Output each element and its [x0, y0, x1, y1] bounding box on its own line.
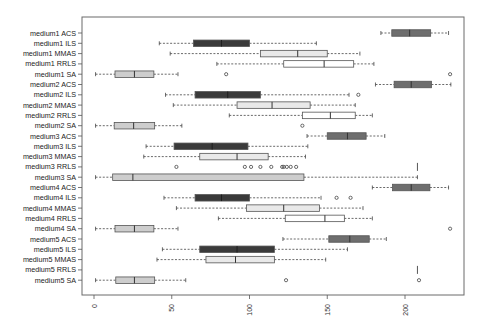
outlier-point: [301, 124, 304, 127]
box-row: [96, 225, 452, 232]
x-tick-label: 0: [91, 304, 98, 308]
y-tick-label: medium1 RRLS: [25, 59, 76, 68]
outlier-point: [295, 165, 298, 168]
box-iqr: [114, 122, 154, 129]
outlier-point: [335, 196, 338, 199]
box-row: [283, 236, 386, 243]
y-tick-label: medium4 ACS: [30, 183, 76, 192]
box-row: [96, 122, 304, 129]
outlier-point: [448, 227, 451, 230]
box-row: [173, 102, 355, 109]
plot-frame: [82, 17, 464, 295]
outlier-point: [357, 93, 360, 96]
box-row: [229, 112, 372, 119]
y-tick-label: medium1 ACS: [30, 29, 76, 38]
box-row: [96, 71, 452, 78]
box-iqr: [260, 50, 327, 57]
box-row: [217, 61, 374, 68]
outlier-point: [284, 279, 287, 282]
box-row: [176, 205, 363, 212]
box-row: [162, 246, 347, 253]
box-row: [146, 143, 308, 150]
box-iqr: [174, 143, 248, 150]
box-iqr: [237, 102, 310, 109]
box-iqr: [113, 174, 304, 181]
x-tick-label: 50: [168, 304, 175, 312]
y-tick-label: medium3 RRLS: [25, 162, 76, 171]
y-tick-label: medium4 MMAS: [23, 204, 76, 213]
box-iqr: [195, 195, 249, 202]
y-tick-label: medium3 MMAS: [23, 152, 76, 161]
y-tick-label: medium1 SA: [35, 70, 76, 79]
outlier-point: [349, 196, 352, 199]
box-row: [307, 133, 385, 140]
box-row: [166, 92, 360, 99]
y-tick-label: medium2 ILS: [34, 90, 77, 99]
box-iqr: [246, 205, 319, 212]
y-tick-label: medium5 RRLS: [25, 265, 76, 274]
box-rows: [96, 30, 452, 284]
box-iqr: [392, 30, 431, 37]
y-tick-label: medium3 ACS: [30, 132, 76, 141]
box-row: [375, 81, 450, 88]
y-tick-label: medium3 SA: [35, 173, 76, 182]
box-row: [164, 195, 352, 202]
y-tick-label: medium5 SA: [35, 276, 76, 285]
y-tick-label: medium2 SA: [35, 121, 76, 130]
box-row: [159, 40, 316, 47]
y-tick-label: medium5 MMAS: [23, 255, 76, 264]
y-tick-label: medium3 ILS: [34, 142, 77, 151]
box-row: [157, 256, 326, 263]
box-iqr: [200, 153, 268, 160]
box-row: [96, 174, 418, 181]
y-tick-label: medium4 SA: [35, 224, 76, 233]
box-iqr: [327, 133, 366, 140]
box-iqr: [302, 112, 355, 119]
outlier-point: [289, 165, 292, 168]
y-tick-label: medium4 ILS: [34, 193, 77, 202]
outlier-point: [259, 165, 262, 168]
box-row: [144, 153, 306, 160]
outlier-point: [270, 165, 273, 168]
outlier-point: [243, 165, 246, 168]
box-iqr: [284, 61, 354, 68]
box-row: [381, 30, 449, 37]
box-iqr: [329, 236, 369, 243]
outlier-point: [225, 73, 228, 76]
box-iqr: [116, 277, 155, 284]
outlier-point: [448, 73, 451, 76]
y-tick-label: medium2 ACS: [30, 80, 76, 89]
x-axis: 050100150200: [91, 295, 409, 316]
outlier-point: [417, 279, 420, 282]
boxplot-chart: medium1 ACSmedium1 ILSmedium1 MMASmedium…: [0, 0, 488, 333]
y-tick-label: medium5 ACS: [30, 235, 76, 244]
box-iqr: [206, 256, 274, 263]
box-row: [96, 277, 421, 284]
y-axis-labels: medium1 ACSmedium1 ILSmedium1 MMASmedium…: [23, 29, 82, 285]
box-iqr: [394, 81, 431, 88]
y-tick-label: medium1 MMAS: [23, 49, 76, 58]
box-row: [175, 163, 418, 171]
box-row: [170, 50, 360, 57]
box-iqr: [285, 215, 344, 222]
y-tick-label: medium2 RRLS: [25, 111, 76, 120]
box-row: [218, 215, 372, 222]
y-tick-label: medium2 MMAS: [23, 101, 76, 110]
x-tick-label: 200: [402, 304, 409, 316]
y-tick-label: medium1 ILS: [34, 39, 77, 48]
x-tick-label: 150: [324, 304, 331, 316]
y-tick-label: medium4 RRLS: [25, 214, 76, 223]
y-tick-label: medium5 ILS: [34, 245, 77, 254]
outlier-point: [175, 165, 178, 168]
box-row: [372, 184, 448, 191]
x-tick-label: 100: [246, 304, 253, 316]
outlier-point: [249, 165, 252, 168]
